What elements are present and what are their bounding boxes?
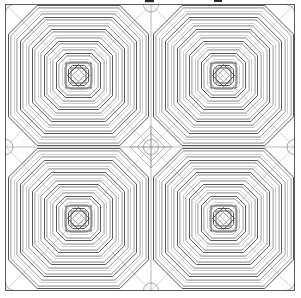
drawing-canvas bbox=[0, 0, 301, 298]
block-top-right-core-square bbox=[211, 63, 236, 88]
block-bottom-right-ring-5-inner bbox=[186, 181, 261, 256]
block-bottom-right-ring-1 bbox=[160, 155, 288, 283]
block-top-right-ring-10 bbox=[214, 66, 234, 86]
block-bottom-right-ring-0-inner bbox=[156, 151, 291, 286]
block-bottom-right-ring-7-inner bbox=[198, 193, 249, 244]
block-bottom-right-ring-6 bbox=[190, 185, 258, 253]
block-top-right-ring-9-inner bbox=[210, 62, 237, 89]
block-top-right-core-inner-square bbox=[216, 68, 231, 83]
block-bottom-right-ring-2 bbox=[166, 161, 282, 277]
tick-top-center bbox=[145, 0, 154, 2]
block-bottom-right-ring-9-inner bbox=[210, 205, 237, 232]
block-top-right bbox=[154, 6, 294, 146]
block-bottom-right-ring-1-inner bbox=[162, 157, 285, 280]
block-top-right-core-inner-diamond bbox=[217, 69, 229, 81]
construction-guides bbox=[6, 5, 295, 291]
pattern-svg bbox=[0, 0, 301, 298]
block-bottom-right-core-square bbox=[211, 206, 236, 231]
block-bottom-right-core-inner-diamond bbox=[217, 212, 229, 224]
tick-marks bbox=[145, 0, 222, 2]
block-bottom-right-ring-10 bbox=[214, 209, 234, 229]
block-bottom-right-ring-4-inner bbox=[180, 175, 267, 262]
block-bottom-right-ring-2-inner bbox=[168, 163, 279, 274]
block-bottom-right bbox=[154, 149, 294, 289]
tick-top-right bbox=[214, 0, 222, 2]
block-bottom-right-core-inner-square bbox=[216, 211, 231, 226]
block-bottom-right-ring-4 bbox=[178, 173, 270, 265]
